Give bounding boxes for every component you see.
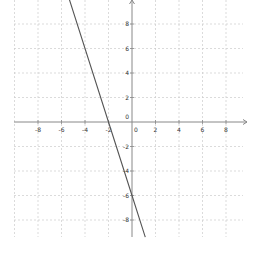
y-tick-label: 6 [125,45,129,52]
x-tick-label: 6 [201,126,205,133]
x-tick-label: 8 [224,126,228,133]
y-tick-label: -8 [123,216,129,223]
y-tick-label: -2 [123,143,129,150]
y-tick-label: 0 [125,113,129,120]
coordinate-plane: -8-6-4-20246886420-2-4-6-8 [0,0,257,256]
x-tick-label: -6 [59,126,65,133]
line-series [69,0,145,237]
y-tick-label: -6 [123,192,129,199]
y-tick-label: 4 [125,69,129,76]
x-tick-label: -4 [82,126,88,133]
x-tick-label: 4 [177,126,181,133]
x-tick-label: 2 [154,126,158,133]
x-tick-label: -8 [35,126,41,133]
plot-series [69,0,145,237]
y-tick-label: 8 [125,20,129,27]
y-tick-label: 2 [125,94,129,101]
x-tick-label: 0 [134,126,138,133]
axes [14,0,247,237]
